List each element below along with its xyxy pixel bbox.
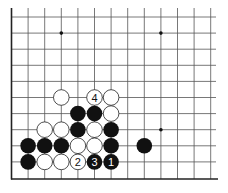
black-stone	[37, 138, 53, 154]
star-point	[60, 31, 64, 35]
black-stone-disc	[70, 106, 86, 122]
white-stone	[54, 154, 70, 170]
black-stone-disc	[87, 106, 103, 122]
white-stone-disc	[70, 138, 86, 154]
move-number-label: 1	[108, 156, 114, 168]
white-stone: 2	[70, 154, 86, 170]
white-stone: 4	[87, 90, 103, 106]
white-stone-disc	[103, 90, 119, 106]
black-stone-disc	[20, 154, 36, 170]
white-stone	[54, 90, 70, 106]
black-stone	[54, 138, 70, 154]
move-number-label: 4	[91, 92, 97, 104]
white-stone	[103, 90, 119, 106]
white-stone	[87, 122, 103, 138]
black-stone	[20, 138, 36, 154]
black-stone	[87, 106, 103, 122]
white-stone	[37, 122, 53, 138]
black-stone: 3	[87, 154, 103, 170]
white-stone-disc	[37, 122, 53, 138]
black-stone	[20, 154, 36, 170]
black-stone-disc	[103, 122, 119, 138]
white-stone	[70, 138, 86, 154]
black-stone-disc	[37, 138, 53, 154]
white-stone-disc	[37, 154, 53, 170]
white-stone-disc	[87, 138, 103, 154]
black-stone	[70, 122, 86, 138]
white-stone-disc	[54, 154, 70, 170]
white-stone-disc	[87, 122, 103, 138]
go-board: 4231	[0, 0, 228, 193]
black-stone	[103, 122, 119, 138]
black-stone-disc	[137, 138, 153, 154]
star-point	[159, 31, 163, 35]
white-stone	[103, 106, 119, 122]
black-stone	[103, 138, 119, 154]
white-stone	[87, 138, 103, 154]
black-stone-disc	[54, 138, 70, 154]
star-point	[159, 128, 163, 132]
white-stone-disc	[54, 122, 70, 138]
white-stone-disc	[54, 90, 70, 106]
black-stone	[137, 138, 153, 154]
black-stone-disc	[103, 138, 119, 154]
move-number-label: 3	[91, 156, 97, 168]
white-stone-disc	[103, 106, 119, 122]
black-stone	[70, 106, 86, 122]
move-number-label: 2	[75, 156, 81, 168]
white-stone	[54, 122, 70, 138]
black-stone: 1	[103, 154, 119, 170]
black-stone-disc	[20, 138, 36, 154]
white-stone	[37, 154, 53, 170]
black-stone-disc	[70, 122, 86, 138]
